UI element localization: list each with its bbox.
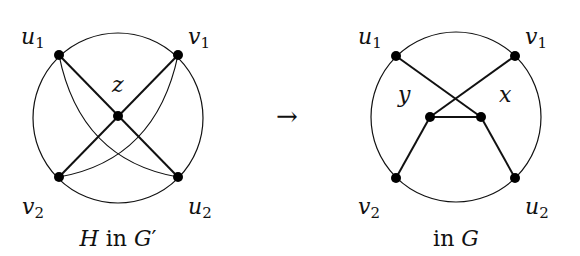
transform-arrow: → — [276, 101, 298, 131]
right-edge-x-u2 — [481, 117, 515, 178]
left-node-v2 — [54, 172, 64, 182]
right-node-v1 — [510, 51, 520, 61]
right-label-u2: u2 — [525, 194, 549, 222]
right-label-v2: v2 — [358, 194, 380, 222]
left-figure: u1 v1 z v2 u2 H in G′ — [21, 24, 212, 251]
right-label-v1: v1 — [525, 24, 547, 52]
right-label-u1: u1 — [358, 24, 382, 52]
left-label-z: z — [111, 72, 124, 97]
left-node-v1 — [173, 50, 183, 60]
right-node-x — [476, 112, 486, 122]
left-label-v1: v1 — [188, 24, 210, 52]
graph-diagram: u1 v1 z v2 u2 H in G′ → u1 v1 y x v2 u2 … — [0, 0, 580, 256]
left-node-u1 — [54, 50, 64, 60]
left-caption: H in G′ — [79, 226, 157, 251]
right-edge-y-v2 — [396, 117, 430, 178]
right-figure: u1 v1 y x v2 u2 in G — [358, 24, 549, 251]
right-label-x: x — [499, 82, 512, 107]
left-label-v2: v2 — [22, 194, 44, 222]
left-node-u2 — [173, 172, 183, 182]
right-label-y: y — [397, 82, 411, 107]
right-node-u2 — [510, 173, 520, 183]
right-node-u1 — [391, 51, 401, 61]
left-label-u1: u1 — [21, 24, 45, 52]
left-node-z — [113, 111, 123, 121]
right-node-v2 — [391, 173, 401, 183]
left-label-u2: u2 — [188, 194, 212, 222]
right-caption: in G — [433, 226, 479, 251]
right-node-y — [425, 112, 435, 122]
